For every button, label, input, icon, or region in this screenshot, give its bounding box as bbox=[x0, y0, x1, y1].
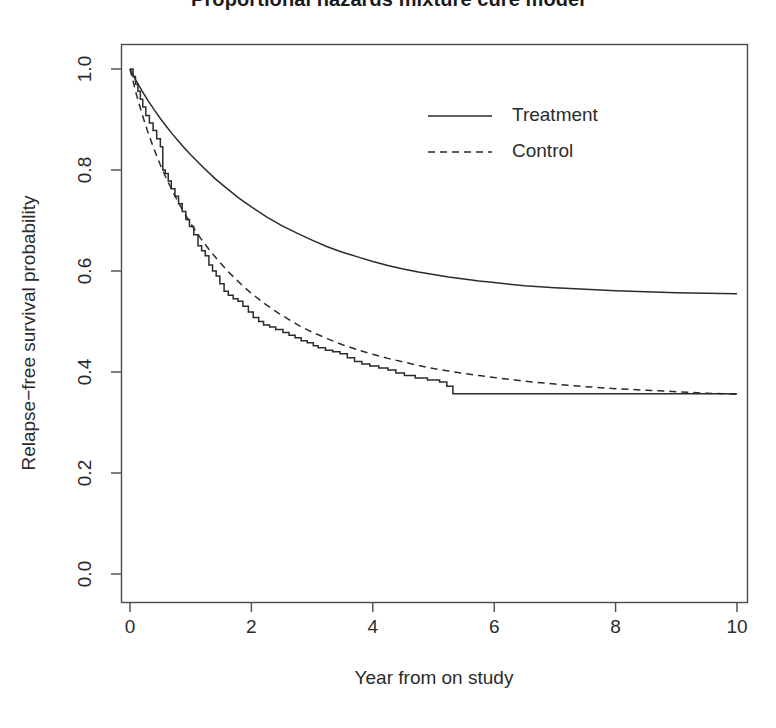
y-tick-label: 0.2 bbox=[74, 450, 96, 496]
data-series bbox=[130, 69, 737, 394]
y-tick-label: 0.8 bbox=[74, 147, 96, 193]
chart-figure: Proportional hazards mixture cure model … bbox=[0, 0, 776, 728]
x-tick-label: 2 bbox=[231, 616, 271, 638]
tick-marks bbox=[111, 69, 737, 612]
y-tick-label: 0.0 bbox=[74, 551, 96, 597]
x-tick-label: 0 bbox=[110, 616, 150, 638]
y-tick-label: 0.4 bbox=[74, 349, 96, 395]
x-tick-label: 8 bbox=[596, 616, 636, 638]
series-line-control bbox=[130, 69, 737, 394]
series-line-treatment bbox=[130, 69, 737, 294]
series-line-kaplan-meier-estimate bbox=[130, 69, 737, 394]
legend-label-treatment: Treatment bbox=[512, 104, 598, 126]
x-tick-label: 10 bbox=[717, 616, 757, 638]
x-tick-label: 6 bbox=[474, 616, 514, 638]
y-tick-label: 0.6 bbox=[74, 248, 96, 294]
y-tick-label: 1.0 bbox=[74, 46, 96, 92]
legend-swatches bbox=[428, 116, 492, 152]
x-tick-label: 4 bbox=[353, 616, 393, 638]
legend-label-control: Control bbox=[512, 140, 573, 162]
axis-frame bbox=[122, 45, 748, 603]
